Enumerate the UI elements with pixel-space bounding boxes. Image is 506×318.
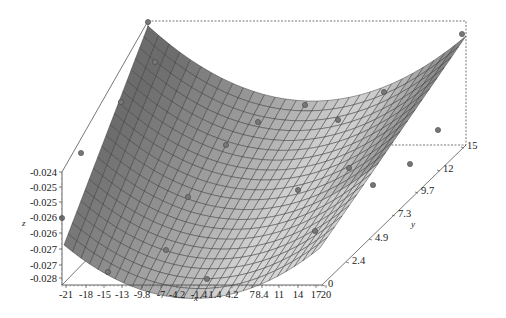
y-tick-label: 2.4 <box>352 255 366 266</box>
x-tick-label: 11 <box>274 289 284 300</box>
x-tick-label: 8.4 <box>255 289 269 300</box>
z-tick-label: -0.025 <box>30 197 57 208</box>
y-axis-title: y <box>410 219 415 229</box>
x-tick-label: -15 <box>97 289 111 300</box>
x-axis-title: x <box>193 293 198 303</box>
z-tick-label: -0.026 <box>30 212 57 223</box>
z-tick-label: -0.027 <box>30 260 57 271</box>
y-tick-label: 4.9 <box>375 232 388 243</box>
x-tick-label: 17 <box>311 289 322 300</box>
x-tick-label: -21 <box>59 289 73 300</box>
x-tick-label: 14 <box>293 289 304 300</box>
y-tick-label: 7.3 <box>398 208 411 219</box>
z-tick-label: -0.024 <box>30 167 58 178</box>
x-tick-label: -18 <box>79 289 93 300</box>
z-tick-label: -0.025 <box>30 182 57 193</box>
x-tick-label: 1.4 <box>208 289 222 300</box>
z-tick-label: -0.028 <box>30 273 57 284</box>
z-axis: -0.024-0.025-0.025-0.026-0.026-0.027-0.0… <box>30 167 62 286</box>
z-tick-label: -0.026 <box>30 228 57 239</box>
x-tick-label: -7 <box>157 289 166 300</box>
surface-mesh <box>64 26 466 299</box>
y-tick-label: 12 <box>443 163 454 174</box>
surface-plot: -0.024-0.025-0.025-0.026-0.026-0.027-0.0… <box>0 0 506 318</box>
z-axis-title: z <box>21 218 26 228</box>
y-tick-label: 9.7 <box>421 185 434 196</box>
x-tick-label: -9.8 <box>134 289 151 300</box>
x-tick-label: 20 <box>321 289 332 300</box>
z-tick-label: -0.027 <box>30 244 57 255</box>
x-tick-label: -4.2 <box>169 289 186 300</box>
x-tick-label: 4.2 <box>225 289 238 300</box>
y-tick-label: 0 <box>328 278 333 289</box>
y-tick-label: 15 <box>467 140 478 151</box>
x-tick-label: -13 <box>115 289 129 300</box>
x-tick-label: 7 <box>249 289 254 300</box>
